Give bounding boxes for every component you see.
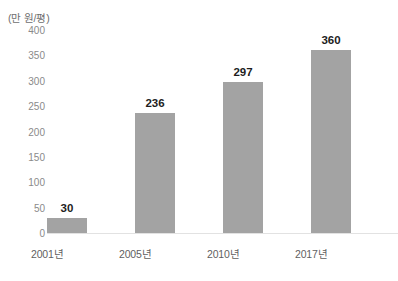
bar-group: 360 <box>311 30 398 233</box>
bar[interactable] <box>47 218 87 233</box>
bar-group: 297 <box>223 30 311 233</box>
y-axis-unit-label: (만 원/평) <box>8 10 49 25</box>
y-tick-label: 250 <box>5 101 45 112</box>
axis-baseline <box>47 233 398 234</box>
plot-area: 30236297360 <box>47 30 398 233</box>
y-tick-label: 350 <box>5 50 45 61</box>
bar-value-label: 360 <box>311 34 351 46</box>
y-tick-label: 150 <box>5 151 45 162</box>
bar-value-label: 236 <box>135 97 175 109</box>
y-tick-label: 100 <box>5 177 45 188</box>
x-category-label: 2005년 <box>119 246 207 261</box>
y-tick-label: 300 <box>5 75 45 86</box>
x-category-label: 2001년 <box>31 246 119 261</box>
bar-chart: (만 원/평) 400350300250200150100500 3023629… <box>0 0 398 281</box>
x-category-label: 2017년 <box>295 246 383 261</box>
bar-value-label: 297 <box>223 66 263 78</box>
y-tick-label: 200 <box>5 126 45 137</box>
y-tick-label: 400 <box>5 25 45 36</box>
y-tick-label: 50 <box>5 202 45 213</box>
bar[interactable] <box>311 50 351 233</box>
bar[interactable] <box>135 113 175 233</box>
bar-value-label: 30 <box>47 202 87 214</box>
y-tick-label: 0 <box>5 228 45 239</box>
bar-group: 236 <box>135 30 223 233</box>
bar[interactable] <box>223 82 263 233</box>
x-category-label: 2010년 <box>207 246 295 261</box>
bar-group: 30 <box>47 30 135 233</box>
